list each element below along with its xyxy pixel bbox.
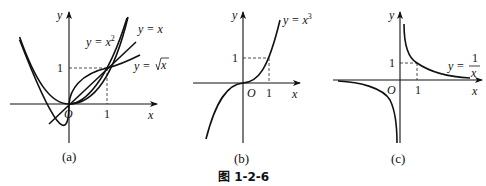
origin-label: O: [64, 107, 73, 121]
label-y-eq-sqrtx: y =: [133, 59, 150, 73]
label-y-eq-x: y = x: [137, 22, 163, 36]
tick-x-1: 1: [266, 86, 272, 100]
axis-label-y: y: [388, 8, 395, 22]
axis-label-x: x: [471, 84, 478, 98]
tick-y-1: 1: [389, 56, 395, 70]
label-y-eq-x3: y = x3: [282, 12, 312, 27]
panel-c: y = 1 x y x O 1 1 (c): [333, 8, 482, 166]
panel-label-a: (a): [62, 149, 76, 164]
axis-label-x: x: [291, 87, 298, 101]
tick-x-1: 1: [104, 107, 110, 121]
panel-b: y = x3 y x O 1 1 (b): [193, 8, 312, 166]
label-y-eq: y =: [447, 59, 464, 73]
label-y-eq-x2: y = x2: [85, 34, 115, 49]
curve-identity: [49, 42, 136, 124]
panel-label-b: (b): [234, 151, 249, 166]
label-fraction-numerator: 1: [472, 51, 478, 65]
panel-a: y = x2 y = x y = x y x O 1 1 (a): [10, 8, 169, 164]
label-sqrt-radicand: x: [160, 58, 167, 72]
axis-label-y: y: [56, 8, 63, 22]
origin-label: O: [247, 86, 256, 100]
tick-x-1: 1: [415, 83, 421, 97]
axis-label-y: y: [231, 8, 238, 22]
axis-label-x: x: [147, 108, 154, 122]
origin-label: O: [387, 83, 396, 97]
tick-y-1: 1: [232, 51, 238, 65]
tick-y-1: 1: [57, 61, 63, 75]
panel-label-c: (c): [391, 151, 405, 166]
label-fraction-denominator: x: [470, 66, 477, 80]
figure-caption: 图 1-2-6: [218, 170, 269, 184]
curve-x-squared-right: [69, 18, 127, 104]
power-functions-figure: y = x2 y = x y = x y x O 1 1 (a) y = x3 …: [0, 0, 486, 186]
